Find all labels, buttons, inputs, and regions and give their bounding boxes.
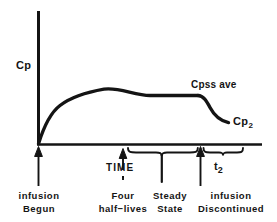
- annotation-infusion-discontinued-line2: Discontinued: [190, 203, 272, 216]
- annotation-infusion-begun-line1: infusion: [4, 190, 74, 203]
- arrow-infusion-begun: [35, 147, 43, 187]
- annotation-steady-state: Steady State: [144, 190, 196, 215]
- annotation-infusion-discontinued-line1: infusion: [190, 190, 272, 203]
- half-life-label-sub: 2: [218, 165, 223, 175]
- x-axis-label: TIME: [106, 163, 134, 173]
- annotation-infusion-discontinued: infusion Discontinued: [190, 190, 272, 215]
- cp2-label-main: Cp: [233, 115, 248, 127]
- arrow-infusion-discontinued: [197, 147, 205, 187]
- annotation-infusion-begun-line2: Begun: [4, 203, 74, 216]
- annotation-infusion-begun: infusion Begun: [4, 190, 74, 215]
- annotation-steady-state-line2: State: [144, 203, 196, 216]
- pk-infusion-figure: Cp Cpss ave Cp2 TIME t2 infusion Begun F…: [0, 0, 277, 222]
- axes-group: [37, 11, 262, 145]
- infusion-rise-segment: [39, 89, 199, 144]
- brace-steady-state: [128, 148, 198, 156]
- brace-half-life: [204, 148, 244, 156]
- cpss-ave-label: Cpss ave: [191, 80, 237, 90]
- y-axis-label: Cp: [16, 60, 31, 71]
- cp2-label: Cp2: [233, 116, 253, 130]
- half-life-label: t2: [214, 161, 223, 175]
- concentration-curve: [39, 89, 229, 144]
- cp2-label-sub: 2: [248, 121, 253, 130]
- post-infusion-decline-segment: [198, 96, 229, 123]
- annotation-steady-state-line1: Steady: [144, 190, 196, 203]
- braces-group: [128, 148, 243, 182]
- chart-canvas: [0, 0, 277, 222]
